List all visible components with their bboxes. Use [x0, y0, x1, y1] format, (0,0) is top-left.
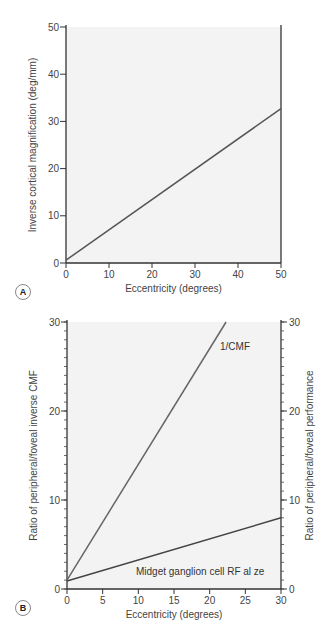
x-tick-label: 40: [232, 269, 244, 280]
y-tick-label: 10: [48, 210, 60, 221]
x-axis-title: Eccentricity (degrees): [126, 609, 223, 620]
y-tick-label: 50: [48, 22, 60, 33]
y-tick-label: 20: [49, 406, 61, 417]
y-right-tick-label: 0: [289, 584, 295, 595]
y-tick-label: 20: [48, 163, 60, 174]
y-tick-label: 40: [48, 69, 60, 80]
series-label: Midget ganglion cell RF al ze: [136, 566, 265, 577]
panel-a: 0102030405001020304050Eccentricity (degr…: [0, 0, 327, 300]
y-axis-right-title: Ratio of peripheral/foveal performance: [304, 370, 315, 541]
y-axis-title: Ratio of peripheral/foveal inverse CMF: [28, 370, 39, 541]
chart-a: 0102030405001020304050Eccentricity (degr…: [0, 0, 327, 300]
x-tick-label: 15: [168, 595, 180, 606]
y-tick-label: 30: [49, 317, 61, 328]
x-tick-label: 20: [204, 595, 216, 606]
panel-label-b: B: [15, 600, 31, 616]
x-tick-label: 30: [189, 269, 201, 280]
x-tick-label: 0: [64, 595, 70, 606]
plot-area: [66, 27, 281, 263]
x-tick-label: 0: [63, 269, 69, 280]
y-right-tick-label: 30: [289, 317, 301, 328]
series-label: 1/CMF: [220, 341, 250, 352]
x-tick-label: 25: [240, 595, 252, 606]
x-tick-label: 10: [103, 269, 115, 280]
x-tick-label: 20: [146, 269, 158, 280]
x-tick-label: 50: [275, 269, 287, 280]
y-right-tick-label: 10: [289, 495, 301, 506]
y-tick-label: 30: [48, 116, 60, 127]
y-tick-label: 0: [54, 584, 60, 595]
y-axis-title: Inverse cortical magnification (deg/mm): [27, 58, 38, 233]
x-tick-label: 5: [100, 595, 106, 606]
x-tick-label: 30: [275, 595, 287, 606]
panel-b: 05101520253001020300102030Eccentricity (…: [0, 300, 327, 622]
panel-label-a: A: [15, 284, 31, 300]
y-tick-label: 10: [49, 495, 61, 506]
chart-b: 05101520253001020300102030Eccentricity (…: [0, 300, 327, 622]
y-right-tick-label: 20: [289, 406, 301, 417]
x-tick-label: 10: [133, 595, 145, 606]
y-tick-label: 0: [53, 258, 59, 269]
x-axis-title: Eccentricity (degrees): [125, 283, 222, 294]
